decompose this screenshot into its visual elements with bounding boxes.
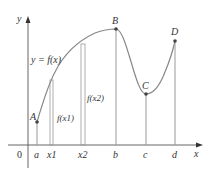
tick-x1: x1 bbox=[46, 149, 56, 160]
bar-fx1 bbox=[50, 80, 53, 145]
function-label: y = f(x) bbox=[30, 54, 62, 66]
point-label-D: D bbox=[170, 26, 179, 37]
x-axis-arrow-icon bbox=[196, 143, 203, 148]
tick-a: a bbox=[34, 149, 39, 160]
curve-f bbox=[37, 29, 175, 122]
function-graph: y x 0 y = f(x) A B C D f(x1) f(x2) a x1 … bbox=[0, 0, 209, 177]
tick-c: c bbox=[143, 149, 148, 160]
point-label-C: C bbox=[142, 80, 149, 91]
value-label-fx2: f(x2) bbox=[87, 93, 104, 103]
tick-d: d bbox=[172, 149, 178, 160]
point-C bbox=[144, 92, 148, 96]
point-B bbox=[114, 27, 118, 31]
tick-x2: x2 bbox=[77, 149, 87, 160]
value-label-fx1: f(x1) bbox=[57, 113, 74, 123]
point-label-B: B bbox=[112, 15, 118, 26]
bar-fx2 bbox=[81, 44, 85, 145]
tick-b: b bbox=[113, 149, 118, 160]
point-label-A: A bbox=[29, 111, 37, 122]
point-D bbox=[173, 39, 177, 43]
origin-label: 0 bbox=[17, 149, 22, 160]
y-axis-arrow-icon bbox=[26, 16, 31, 23]
x-axis-label: x bbox=[193, 148, 199, 159]
y-axis-label: y bbox=[16, 13, 22, 24]
